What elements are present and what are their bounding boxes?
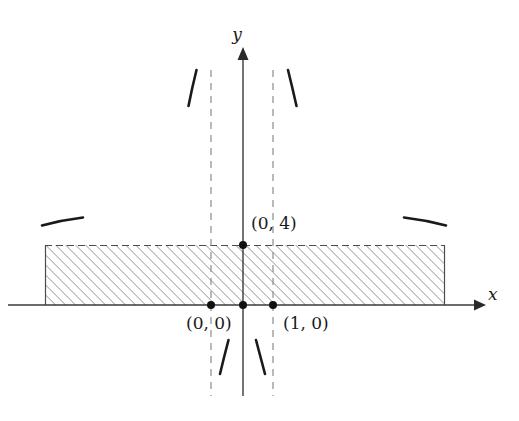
x-axis-label: x [488, 284, 498, 304]
x-axis-arrowhead [474, 300, 486, 311]
fragment-left-outer [42, 218, 83, 226]
math-figure: y x (0, 4) (0, 0) (1, 0) [0, 0, 519, 421]
point-0-4-dot [239, 241, 247, 249]
dashed-guide-lines [211, 70, 273, 396]
fragment-lower-left-inner [220, 340, 229, 374]
point-label-0-4: (0, 4) [251, 213, 297, 233]
fragment-right-outer [404, 218, 446, 226]
shaded-region [45, 245, 445, 305]
point-label-0-0: (0, 0) [186, 313, 232, 333]
point-label-1-0: (1, 0) [283, 313, 329, 333]
fragment-lower-right-inner [256, 340, 265, 374]
point-1-0-dot [269, 301, 277, 309]
y-axis-arrowhead [238, 47, 249, 60]
point-origin-dot [239, 301, 247, 309]
curve-fragments [42, 70, 446, 374]
y-axis [238, 47, 249, 396]
fragment-upper-left-inner [189, 70, 197, 106]
coordinate-plane-svg: y x (0, 4) (0, 0) (1, 0) [0, 0, 519, 421]
y-axis-label: y [231, 24, 242, 44]
fragment-upper-right-inner [288, 70, 297, 106]
point-0-0-dot [207, 301, 215, 309]
